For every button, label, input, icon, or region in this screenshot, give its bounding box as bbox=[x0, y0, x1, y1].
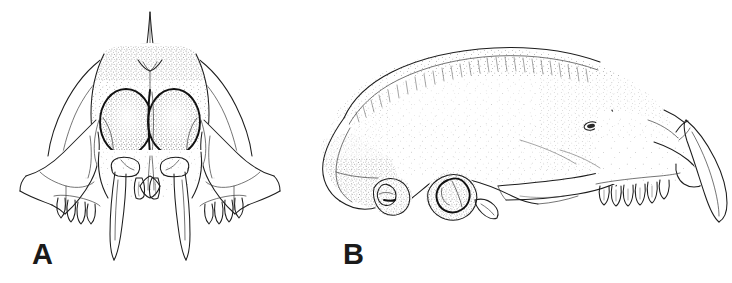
panel-label-b: B bbox=[343, 240, 364, 269]
skull-illustration bbox=[0, 0, 732, 283]
muzzle-face bbox=[94, 148, 208, 204]
figure-plate: A B bbox=[0, 0, 732, 283]
panel-label-a: A bbox=[32, 240, 53, 269]
